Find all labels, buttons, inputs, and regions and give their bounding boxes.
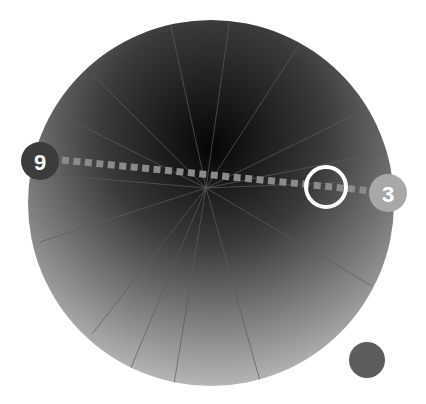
- color-swatch[interactable]: [349, 342, 385, 378]
- end-marker-label: 3: [382, 182, 394, 207]
- end-marker[interactable]: 3: [369, 174, 407, 212]
- color-wheel-widget: 9 3: [0, 0, 426, 404]
- start-marker[interactable]: 9: [21, 142, 59, 180]
- start-marker-label: 9: [34, 150, 46, 175]
